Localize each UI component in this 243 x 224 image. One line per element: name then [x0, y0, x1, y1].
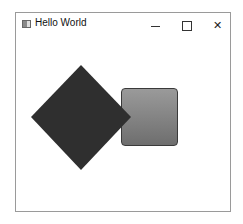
diamond-shape: [31, 65, 133, 171]
title-bar[interactable]: Hello World ✕: [16, 13, 230, 37]
app-icon: [22, 20, 31, 28]
close-button[interactable]: ✕: [203, 15, 231, 35]
minimize-icon: [151, 26, 160, 27]
app-window: Hello World ✕: [15, 12, 231, 212]
drawing-canvas: [16, 37, 230, 212]
minimize-button[interactable]: [141, 15, 169, 35]
window-title: Hello World: [35, 17, 87, 28]
maximize-icon: [182, 21, 192, 31]
close-icon: ✕: [213, 19, 222, 31]
maximize-button[interactable]: [173, 15, 201, 35]
